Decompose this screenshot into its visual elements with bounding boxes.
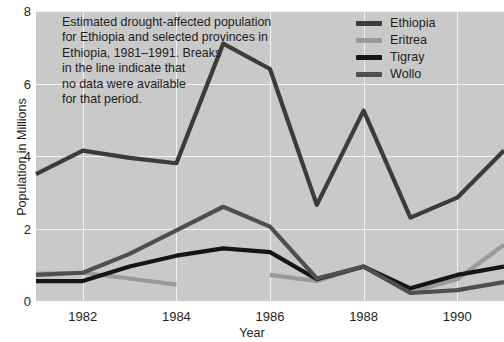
chart-annotation: Estimated drought-affected populationfor… (62, 15, 292, 107)
legend-item-ethiopia: Ethiopia (356, 16, 476, 32)
annotation-line: Ethiopia, 1981–1991. Breaks (62, 46, 292, 61)
legend-item-wollo: Wollo (356, 67, 476, 83)
x-axis-tick-label: 1982 (68, 310, 97, 323)
legend-label: Eritrea (390, 34, 427, 47)
annotation-line: for Ethiopia and selected provinces in (62, 30, 292, 45)
legend-item-tigray: Tigray (356, 50, 476, 66)
x-axis-label: Year (0, 326, 504, 340)
y-axis-tick-label: 8 (24, 5, 31, 18)
legend-item-eritrea: Eritrea (356, 33, 476, 49)
legend-label: Wollo (390, 68, 421, 81)
y-axis-label: Population in Millions (15, 77, 29, 237)
line-series-tigray (36, 248, 504, 288)
chart-figure: 02468 Population in Millions Estimated d… (0, 0, 504, 342)
x-axis-tick-label: 1986 (256, 310, 285, 323)
x-axis-tick-label: 1988 (349, 310, 378, 323)
annotation-line: for that period. (62, 92, 292, 107)
legend-label: Ethiopia (390, 17, 436, 30)
legend-swatch-icon (356, 38, 382, 43)
chart-legend: EthiopiaEritreaTigrayWollo (356, 16, 476, 84)
x-axis-tick-label: 1990 (443, 310, 472, 323)
legend-label: Tigray (390, 51, 425, 64)
annotation-line: Estimated drought-affected population (62, 15, 292, 30)
y-axis-tick-label: 0 (24, 295, 31, 308)
legend-swatch-icon (356, 21, 382, 26)
legend-swatch-icon (356, 55, 382, 60)
x-axis-tick-label: 1984 (162, 310, 191, 323)
annotation-line: in the line indicate that (62, 61, 292, 76)
annotation-line: no data were available (62, 77, 292, 92)
legend-swatch-icon (356, 72, 382, 77)
